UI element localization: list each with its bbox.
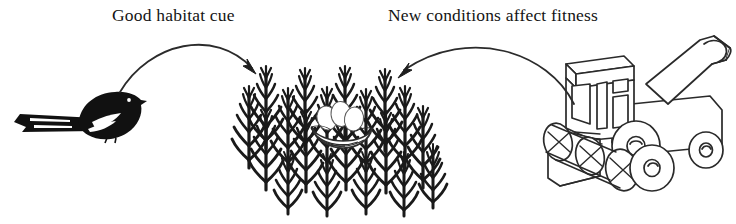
figure-canvas xyxy=(0,0,736,224)
combine-harvester xyxy=(540,36,731,194)
arrow-bird-to-field xyxy=(120,45,256,92)
magpie-silhouette xyxy=(14,92,147,143)
figure-root: Good habitat cue New conditions affect f… xyxy=(0,0,736,224)
label-good-habitat-cue: Good habitat cue xyxy=(112,7,235,25)
arrow-combine-to-field xyxy=(398,48,574,104)
label-new-conditions-affect-fitness: New conditions affect fitness xyxy=(388,7,598,25)
